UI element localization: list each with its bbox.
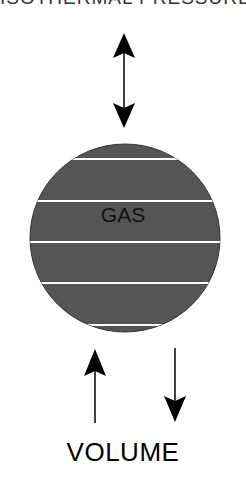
gas-ellipse — [30, 144, 220, 332]
arrow-up-icon — [84, 349, 106, 423]
gas-label: GAS — [0, 203, 246, 227]
volume-label: VOLUME — [0, 437, 246, 468]
double-arrow-icon — [113, 33, 135, 128]
diagram-canvas — [0, 0, 246, 488]
arrow-down-icon — [164, 348, 186, 422]
